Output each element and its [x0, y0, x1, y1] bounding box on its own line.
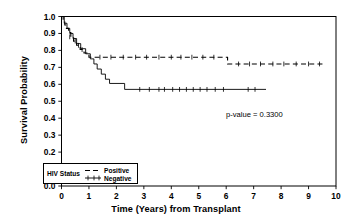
x-tick-label: 3: [134, 191, 154, 201]
x-tick-label: 4: [161, 191, 181, 201]
y-tick-label: 0.8: [32, 45, 56, 55]
y-tick-label: 0.9: [32, 28, 56, 38]
x-tick-label: 10: [326, 191, 346, 201]
x-axis-title: Time (Years) from Transplant: [0, 204, 352, 214]
y-tick-label: 0.5: [32, 96, 56, 106]
y-tick-label: 0.3: [32, 130, 56, 140]
legend-entry-positive: Positive: [104, 167, 129, 174]
x-tick-label: 8: [271, 191, 291, 201]
x-tick-label: 6: [216, 191, 236, 201]
y-axis-title: Survival Probability: [19, 25, 29, 175]
y-tick-label: 0.4: [32, 113, 56, 123]
plot-frame: [62, 17, 337, 187]
series-line-positive: [62, 17, 324, 64]
x-tick-label: 1: [79, 191, 99, 201]
x-tick-label: 7: [244, 191, 264, 201]
y-tick-label: 0.2: [32, 147, 56, 157]
series-line-negative: [62, 17, 267, 90]
survival-plot-figure: Survival Probability Time (Years) from T…: [0, 0, 352, 221]
legend-box: HIV Status Positive Negative: [43, 163, 138, 184]
legend-title: HIV Status: [47, 170, 80, 177]
p-value-annotation: p-value = 0.3300: [226, 110, 283, 119]
x-tick-label: 5: [189, 191, 209, 201]
y-tick-label: 0.7: [32, 62, 56, 72]
plot-frame-rect: [62, 17, 337, 187]
x-tick-label: 0: [52, 191, 72, 201]
y-tick-label: 1.0: [32, 12, 56, 22]
y-tick-label: 0.6: [32, 79, 56, 89]
x-tick-label: 9: [299, 191, 319, 201]
x-tick-label: 2: [106, 191, 126, 201]
series-lines: [62, 17, 324, 92]
legend-entry-negative: Negative: [104, 175, 132, 182]
